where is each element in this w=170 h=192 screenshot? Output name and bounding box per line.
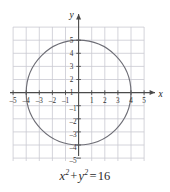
y-tick-label: –4 [68, 144, 77, 152]
x-axis-label: x [158, 89, 164, 99]
x-tick-label: 4 [129, 97, 133, 105]
x-tick-label: –5 [9, 97, 18, 105]
y-axis-label: y [69, 10, 75, 20]
equation-equals: = [88, 169, 97, 183]
equation-value: 16 [98, 169, 111, 183]
y-tick-label: 1 [70, 89, 74, 97]
y-axis-arrow [76, 14, 81, 19]
y-tick-label: –2 [68, 118, 77, 126]
x-axis [10, 90, 155, 95]
x-tick-label: –2 [48, 97, 57, 105]
x-tick-label: 3 [116, 97, 120, 105]
y-tick-label: 4 [70, 50, 74, 58]
equation-caption: x2+y2=16 [0, 168, 170, 184]
y-tick-labels: 5 4 3 2 1 –1 –2 –3 –4 –5 [68, 37, 77, 165]
x-tick-label: 5 [142, 97, 146, 105]
y-tick-label: 2 [70, 76, 74, 84]
graph-svg: y x –5 –4 –3 –2 –1 1 2 3 4 5 [0, 0, 170, 166]
coordinate-plane: y x –5 –4 –3 –2 –1 1 2 3 4 5 [0, 0, 170, 166]
x-tick-label: –3 [35, 97, 44, 105]
y-axis [76, 14, 81, 156]
x-tick-label: 1 [90, 97, 94, 105]
equation-plus: + [69, 169, 78, 183]
x-axis-arrow [150, 90, 155, 95]
y-tick-label: 3 [70, 63, 74, 71]
y-tick-label: 5 [70, 37, 74, 45]
x-tick-label: –1 [61, 97, 70, 105]
y-tick-label: –1 [68, 105, 77, 113]
x-tick-labels: –5 –4 –3 –2 –1 1 2 3 4 5 [9, 97, 147, 105]
y-tick-label: –5 [68, 157, 77, 165]
x-tick-label: 2 [103, 97, 107, 105]
x-tick-label: –4 [22, 97, 31, 105]
y-tick-label: –3 [68, 131, 77, 139]
figure-container: y x –5 –4 –3 –2 –1 1 2 3 4 5 [0, 0, 170, 192]
